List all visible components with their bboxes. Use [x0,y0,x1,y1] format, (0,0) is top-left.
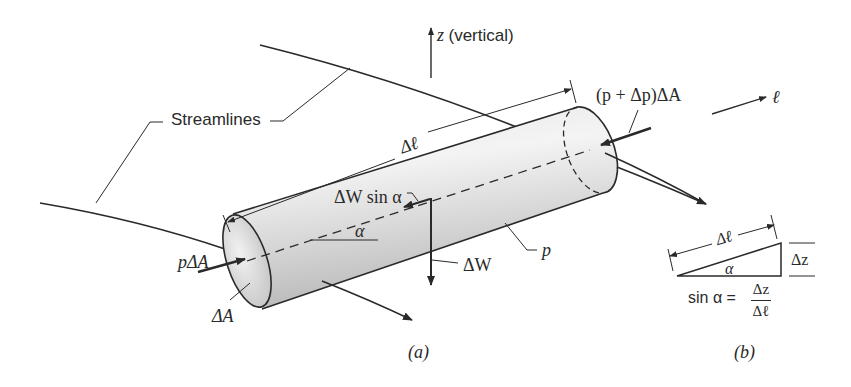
l-direction-label: ℓ [772,88,780,106]
streamline-lower [40,203,228,250]
alpha-label: α [355,222,364,240]
caption-b: (b) [734,343,755,361]
fraction-bar [751,300,771,301]
weight-label: ΔW [463,256,492,274]
left-pressure-force-label: pΔA [178,253,209,271]
sine-formula-fraction: Δz Δℓ [751,281,771,320]
area-label: ΔA [212,307,234,325]
right-pressure-force-label: (p + Δp)ΔA [596,86,681,104]
z-axis-note: (vertical) [448,26,513,45]
triangle-angle-label: α [725,261,733,277]
fraction-numerator: Δz [753,281,769,298]
fluid-element-diagram [0,0,851,387]
streamlines-label: Streamlines [171,111,261,128]
sine-formula-lhs: sin α = [688,290,736,306]
fraction-denominator: Δℓ [753,303,770,320]
z-axis-symbol: z [437,25,444,45]
pressure-label: p [542,241,551,259]
triangle-rise-label: Δz [791,252,808,268]
weight-component-label: ΔW sin α [334,188,402,206]
caption-a: (a) [408,343,429,361]
z-axis-label: z (vertical) [437,26,514,44]
